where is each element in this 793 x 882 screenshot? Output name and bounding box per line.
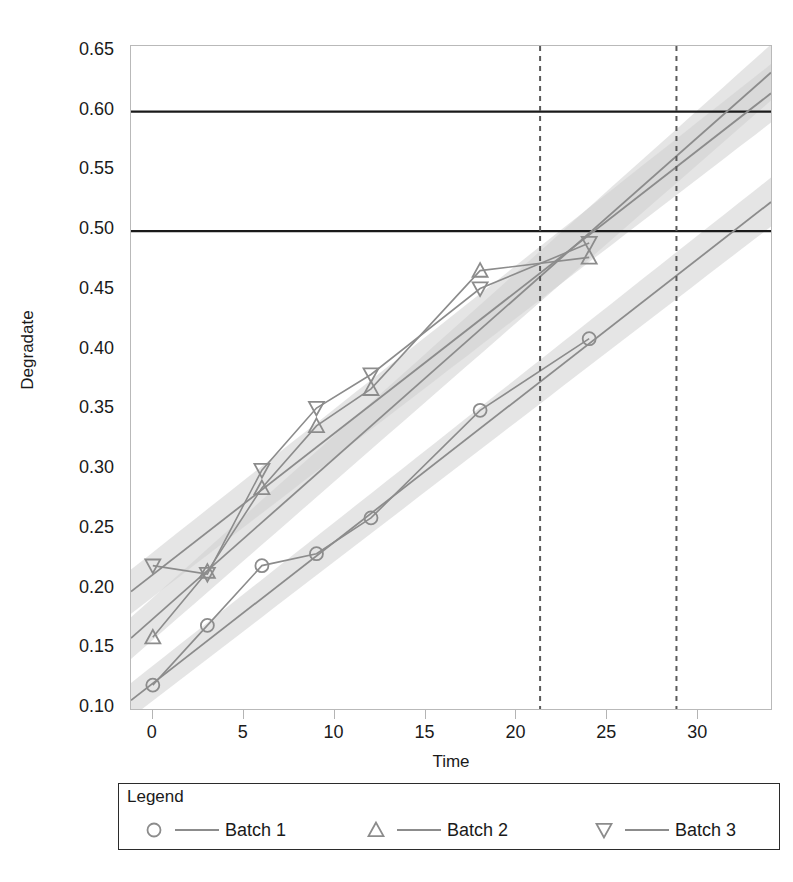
plot-area xyxy=(130,45,772,710)
legend-label: Batch 1 xyxy=(225,820,286,841)
legend-item-batch-2[interactable]: Batch 2 xyxy=(361,816,508,844)
legend-line-swatch xyxy=(397,829,441,831)
y-tick-label: 0.45 xyxy=(50,279,114,297)
confidence-bands xyxy=(131,46,771,709)
x-tick-label: 30 xyxy=(667,722,727,743)
legend-line-swatch xyxy=(625,829,669,831)
x-tick-mark xyxy=(152,710,153,719)
chart-figure: Degradate 0.100.150.200.250.300.350.400.… xyxy=(0,0,793,882)
legend-label: Batch 3 xyxy=(675,820,736,841)
figure-caption xyxy=(0,868,793,882)
x-tick-label: 10 xyxy=(304,722,364,743)
y-axis-tick-labels: 0.100.150.200.250.300.350.400.450.500.55… xyxy=(48,0,114,882)
triangle-down-icon xyxy=(597,824,612,838)
x-tick-label: 5 xyxy=(213,722,273,743)
x-tick-label: 0 xyxy=(122,722,182,743)
y-axis-title: Degradate xyxy=(18,250,38,450)
y-tick-label: 0.25 xyxy=(50,518,114,536)
confidence-band-1 xyxy=(131,178,771,710)
x-tick-mark xyxy=(697,710,698,719)
y-tick-label: 0.35 xyxy=(50,398,114,416)
legend-box: Legend Batch 1Batch 2Batch 3 xyxy=(118,783,780,850)
plot-canvas xyxy=(131,46,771,709)
x-tick-label: 20 xyxy=(485,722,545,743)
x-axis-line xyxy=(130,709,770,710)
x-tick-mark xyxy=(243,710,244,719)
x-tick-mark xyxy=(606,710,607,719)
y-tick-label: 0.40 xyxy=(50,339,114,357)
triangle-down-icon xyxy=(589,819,619,841)
x-tick-mark xyxy=(515,710,516,719)
y-tick-label: 0.30 xyxy=(50,458,114,476)
fit-line-batch-2 xyxy=(131,73,771,639)
y-tick-label: 0.65 xyxy=(50,40,114,58)
x-tick-mark xyxy=(334,710,335,719)
legend-line-swatch xyxy=(175,829,219,831)
y-tick-label: 0.50 xyxy=(50,219,114,237)
legend-item-batch-1[interactable]: Batch 1 xyxy=(139,816,286,844)
circle-icon xyxy=(139,819,169,841)
x-axis-title: Time xyxy=(130,752,772,772)
y-tick-label: 0.20 xyxy=(50,578,114,596)
x-tick-label: 25 xyxy=(576,722,636,743)
y-tick-label: 0.10 xyxy=(50,697,114,715)
triangle-up-icon xyxy=(369,823,384,837)
y-tick-label: 0.15 xyxy=(50,637,114,655)
legend-item-batch-3[interactable]: Batch 3 xyxy=(589,816,736,844)
x-tick-label: 15 xyxy=(395,722,455,743)
circle-icon xyxy=(148,824,161,837)
triangle-up-icon xyxy=(361,819,391,841)
x-tick-mark xyxy=(425,710,426,719)
legend-label: Batch 2 xyxy=(447,820,508,841)
y-tick-label: 0.55 xyxy=(50,159,114,177)
confidence-band-3 xyxy=(131,64,771,614)
fit-line-batch-3 xyxy=(131,93,771,591)
fit-line-batch-1 xyxy=(131,202,771,700)
y-tick-label: 0.60 xyxy=(50,100,114,118)
legend-title: Legend xyxy=(127,787,184,807)
